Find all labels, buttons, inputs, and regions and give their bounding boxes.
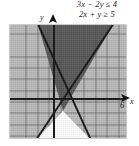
graph-plot-area — [10, 25, 126, 138]
x-axis-tick-label-6: 6 — [120, 100, 124, 110]
x-axis-line — [10, 98, 126, 100]
grid-lines — [10, 25, 126, 138]
inequality-line-2: 2x + y ≥ 5 — [60, 10, 134, 20]
inequality-caption: 3x − 2y ≤ 4 2x + y ≥ 5 — [60, 0, 134, 19]
y-axis-line — [53, 25, 55, 138]
x-axis-label: x — [130, 97, 134, 106]
y-axis-label: y — [40, 13, 44, 22]
figure-root: 3x − 2y ≤ 4 2x + y ≥ 5 y x 6 — [0, 0, 139, 146]
y-axis-arrow-icon — [48, 14, 58, 26]
